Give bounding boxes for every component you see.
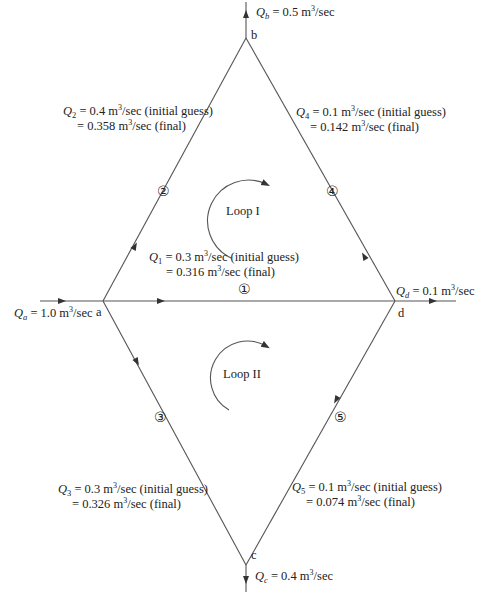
flow-label-qa: Qa = 1.0 m3/sec <box>14 306 93 321</box>
pipe1-flow-label: Q1 = 0.3 m3/sec (initial guess) = 0.316 … <box>149 250 299 280</box>
flow-label-qb: Qb = 0.5 m3/sec <box>256 5 335 20</box>
arrow-right-pipe1 <box>157 298 165 304</box>
pipe4-flow-label: Q4 = 0.1 m3/sec (initial guess) = 0.142 … <box>296 105 446 135</box>
arrow-down-c <box>243 576 249 584</box>
pipe-5 <box>246 301 395 565</box>
pipe4-number: ④ <box>326 183 339 199</box>
pipe5-flow-label: Q5 = 0.1 m3/sec (initial guess) = 0.074 … <box>292 480 442 510</box>
node-d-label: d <box>398 306 404 321</box>
flow-label-qc: Qc = 0.4 m3/sec <box>255 569 333 584</box>
pipe5-number: ⑤ <box>334 409 347 425</box>
flow-label-qd: Qd = 0.1 m3/sec <box>396 284 475 299</box>
pipe3-number: ③ <box>154 409 167 425</box>
loop2-label: Loop II <box>223 367 261 382</box>
node-c-label: c <box>251 548 257 563</box>
node-a-label: a <box>96 305 102 320</box>
pipe2-number: ② <box>157 183 170 199</box>
pipe1-number: ① <box>238 281 251 297</box>
arrow-right-a-in <box>58 298 66 304</box>
loop1-label: Loop I <box>226 204 260 219</box>
node-b-label: b <box>251 28 257 43</box>
pipe2-flow-label: Q2 = 0.4 m3/sec (initial guess) = 0.358 … <box>63 104 213 134</box>
pipe3-flow-label: Q3 = 0.3 m3/sec (initial guess) = 0.326 … <box>58 482 208 512</box>
arrow-up-b <box>243 10 249 18</box>
loop1-arrow <box>208 180 266 258</box>
pipe-3 <box>103 301 246 565</box>
